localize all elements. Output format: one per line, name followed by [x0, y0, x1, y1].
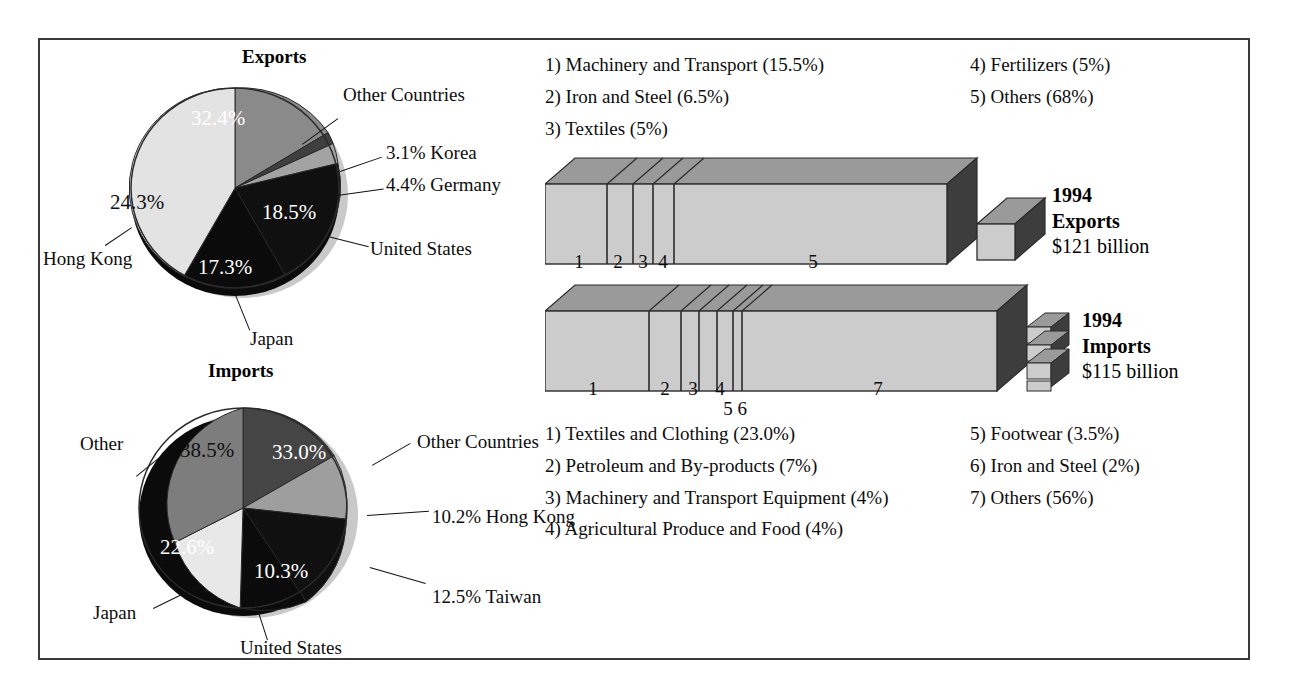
exports-callout-kind: Exports [1052, 209, 1149, 235]
exports-bar-segment-number-2: 2 [610, 251, 626, 273]
imports-bar-segment-number-4: 4 [712, 378, 728, 400]
exports-bar-legend-right: 4) Fertilizers (5%) 5) Others (68%) [970, 54, 1110, 118]
imports-callout-amount: $115 billion [1082, 359, 1178, 385]
legend-item: 2) Iron and Steel (6.5%) [545, 86, 824, 109]
exports-slice-pct-japan: 17.3% [198, 255, 252, 280]
exports-label-united-states: United States [370, 238, 472, 260]
legend-item: 1) Textiles and Clothing (23.0%) [545, 423, 889, 446]
imports-label-japan: Japan [93, 602, 136, 624]
legend-item: 5) Others (68%) [970, 86, 1110, 109]
imports-leader-other-countries [372, 443, 411, 466]
legend-item: 2) Petroleum and By-products (7%) [545, 455, 889, 478]
legend-item: 7) Others (56%) [970, 487, 1140, 510]
legend-item: 3) Machinery and Transport Equipment (4%… [545, 487, 889, 510]
figure-frame: Exports 32.4% 1 [38, 38, 1250, 660]
exports-label-korea: 3.1% Korea [386, 142, 477, 164]
imports-label-other-countries: Other Countries [417, 431, 539, 453]
imports-slice-pct-other: 38.5% [180, 438, 234, 463]
imports-label-united-states: United States [240, 637, 342, 659]
imports-bar-segment-number-2: 2 [657, 378, 673, 400]
imports-callout-year: 1994 [1082, 308, 1178, 334]
exports-label-japan: Japan [250, 328, 293, 350]
legend-item: 5) Footwear (3.5%) [970, 423, 1140, 446]
legend-item: 3) Textiles (5%) [545, 118, 824, 141]
imports-callout-kind: Imports [1082, 334, 1178, 360]
imports-pie-chart [128, 388, 368, 628]
imports-slice-pct-japan: 22.6% [160, 535, 214, 560]
imports-bar-3d [545, 277, 1105, 407]
exports-bar-segment-number-5: 5 [805, 251, 821, 273]
exports-label-germany: 4.4% Germany [386, 174, 501, 196]
imports-pie-title: Imports [208, 360, 273, 382]
imports-bar-segment-number-3: 3 [685, 378, 701, 400]
imports-slice-pct-other-countries: 33.0% [272, 440, 326, 465]
imports-bar-legend-right: 5) Footwear (3.5%) 6) Iron and Steel (2%… [970, 423, 1140, 518]
legend-item: 6) Iron and Steel (2%) [970, 455, 1140, 478]
legend-item: 1) Machinery and Transport (15.5%) [545, 54, 824, 77]
imports-label-other: Other [80, 433, 123, 455]
imports-leader-hong-kong [367, 511, 429, 516]
exports-bar-segment-number-3: 3 [635, 251, 651, 273]
exports-slice-pct-united-states: 18.5% [262, 200, 316, 225]
imports-label-taiwan: 12.5% Taiwan [432, 586, 541, 608]
exports-label-hong-kong: Hong Kong [43, 248, 132, 270]
imports-bar-callout: 1994 Imports $115 billion [1082, 308, 1178, 385]
imports-pie-svg [128, 388, 368, 628]
legend-item: 4) Fertilizers (5%) [970, 54, 1110, 77]
imports-slice-pct-united-states: 10.3% [254, 559, 308, 584]
imports-bar-below-numbers: 5 6 [715, 398, 755, 420]
figure-canvas: Exports 32.4% 1 [0, 0, 1289, 698]
exports-bar-segment-number-1: 1 [569, 251, 589, 273]
exports-slice-pct-other-countries: 32.4% [191, 106, 245, 131]
imports-leader-taiwan [370, 567, 426, 584]
imports-bar-segment-number-1: 1 [585, 378, 601, 400]
exports-bar-segment-number-4: 4 [655, 251, 671, 273]
exports-callout-amount: $121 billion [1052, 234, 1149, 260]
exports-bar-callout: 1994 Exports $121 billion [1052, 183, 1149, 260]
imports-bar-segment-number-7: 7 [870, 378, 886, 400]
imports-bar-legend-left: 1) Textiles and Clothing (23.0%) 2) Petr… [545, 423, 889, 550]
legend-item: 4) Agricultural Produce and Food (4%) [545, 518, 889, 541]
exports-label-other-countries: Other Countries [343, 84, 465, 106]
exports-slice-pct-hong-kong: 24.3% [110, 190, 164, 215]
exports-callout-year: 1994 [1052, 183, 1149, 209]
exports-pie-title: Exports [242, 46, 306, 68]
exports-bar-legend-left: 1) Machinery and Transport (15.5%) 2) Ir… [545, 54, 824, 149]
